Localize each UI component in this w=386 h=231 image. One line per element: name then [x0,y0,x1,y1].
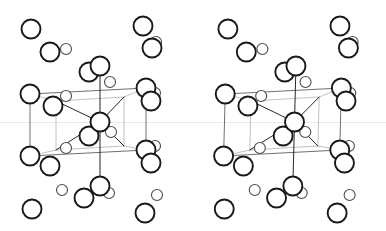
atom-top-cap-right [286,57,305,76]
cell-edge-faint [318,97,319,146]
atom-small-back-bottom-left [254,143,265,154]
atoms-large [21,17,162,223]
atom-bottom-left-free [267,189,286,208]
atom-cell-corner-top-left [21,85,40,104]
atom-free-lower-left-1 [23,200,42,219]
atom-cell-center [91,113,110,132]
atom-below-bottom-left [41,157,60,176]
atom-small-back-bottom-left [61,143,72,154]
atom-bottom-stem [283,177,302,196]
atom-interior-upper-left [44,97,63,116]
atom-free-upper-right-2 [339,39,358,58]
atom-right-lower-outer [335,154,354,173]
atom-bottom-left-free [75,189,94,208]
atom-free-upper-left-2 [237,43,256,62]
cell-edge-strong [224,150,340,156]
atom-free-upper-left-1 [218,20,237,39]
atom-small-lower-right [152,190,163,201]
atom-cell-corner-bottom-left [214,147,233,166]
atom-free-upper-right-2 [143,39,162,58]
atom-right-upper-outer [337,92,356,111]
atom-small-top-inner [105,77,116,88]
cell-edge-strong [225,88,341,94]
atom-interior-upper-left [238,97,257,116]
atom-free-lower-right-1 [136,204,155,223]
atom-small-back-top-left [256,91,267,102]
atom-small-lower-left [249,185,260,196]
atom-bottom-stem [91,177,110,196]
atom-small-top-inner [300,77,311,88]
atom-top-cap-right [91,57,110,76]
atom-free-lower-left-1 [215,200,234,219]
right-stereo-view [214,17,358,223]
atom-small-back-top-left [61,91,72,102]
stereo-pair-canvas [0,0,386,231]
left-stereo-view [21,17,163,223]
cell-edge-strong [30,88,146,94]
atoms-large [214,17,358,223]
atom-small-lower-left [57,185,68,196]
crystal-structure-stereo-figure [0,0,386,231]
atom-free-upper-left-1 [22,20,41,39]
atom-small-upper-left [257,44,268,55]
atom-below-bottom-left [234,157,253,176]
atom-free-upper-right-1 [330,17,349,36]
atom-cell-center [285,113,304,132]
atom-free-upper-right-1 [134,17,153,36]
atom-small-lower-right [344,190,355,201]
atom-free-upper-left-2 [41,43,60,62]
atom-right-upper-outer [142,92,161,111]
cell-edge-strong [30,150,146,156]
atom-cell-corner-top-left [216,85,235,104]
atom-cell-corner-bottom-left [21,147,40,166]
atom-small-upper-left [61,44,72,55]
atom-right-lower-outer [142,154,161,173]
atom-free-lower-right-1 [328,204,347,223]
